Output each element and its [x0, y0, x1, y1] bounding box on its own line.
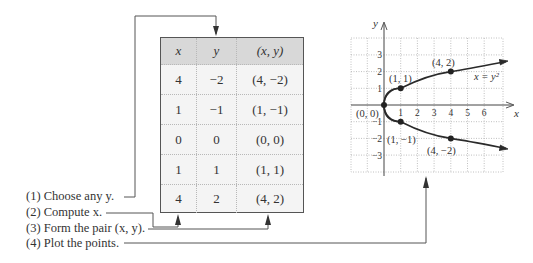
point-label: (1, −1) — [387, 134, 416, 146]
y-tick-label: 2 — [377, 67, 382, 77]
point-1-neg1 — [398, 119, 404, 125]
point-label: (4, −2) — [427, 145, 456, 157]
y-tick-label: 3 — [377, 50, 382, 60]
point-1-1 — [398, 85, 404, 91]
parabola-diagram: x y (x, y) 4 −2 (4, −2) 1 −1 (1, −1) 0 0… — [0, 0, 533, 263]
parabola-graph: x y 1 2 3 4 5 6 3 2 1 −1 −2 −3 — [0, 0, 533, 263]
x-tick-label: 3 — [432, 108, 437, 118]
point-0-0 — [381, 102, 387, 108]
x-axis-label: x — [513, 107, 519, 119]
x-tick-label: 5 — [465, 108, 470, 118]
x-tick-label: 6 — [482, 108, 487, 118]
y-tick-label: −2 — [372, 134, 382, 144]
y-tick-label: −3 — [372, 151, 382, 161]
x-tick-label: 4 — [448, 108, 453, 118]
point-label: (1, 1) — [389, 73, 412, 85]
point-label: (0, 0) — [356, 108, 379, 120]
x-tick-label: 1 — [398, 108, 403, 118]
x-tick-label: 2 — [415, 108, 420, 118]
y-axis-label: y — [372, 17, 378, 29]
point-4-neg2 — [448, 135, 454, 141]
equation-label: x = y² — [473, 71, 500, 82]
y-tick-label: 1 — [377, 84, 382, 94]
point-label: (4, 2) — [432, 57, 455, 69]
x-tick-labels: 1 2 3 4 5 6 — [398, 108, 487, 118]
point-4-2 — [448, 69, 454, 75]
